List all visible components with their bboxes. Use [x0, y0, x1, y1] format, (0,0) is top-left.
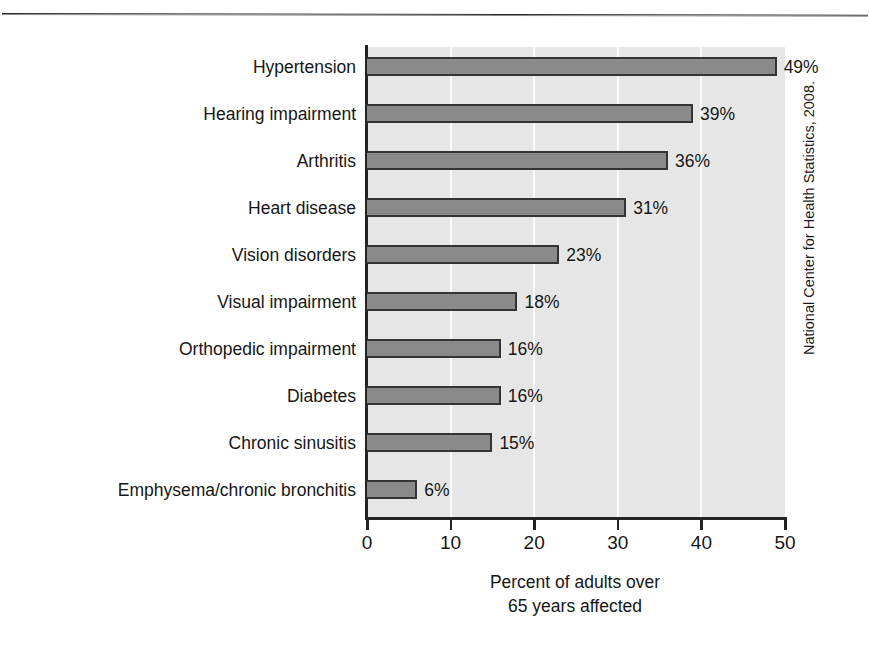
x-axis-tick-label: 0 [347, 532, 387, 554]
bar-value-label: 18% [524, 293, 559, 311]
x-axis-tick-label: 50 [765, 532, 805, 554]
x-axis-tick-label: 10 [431, 532, 471, 554]
x-axis-tick [700, 519, 703, 530]
x-axis-title-line-1: Percent of adults over [395, 570, 755, 594]
x-axis-tick [533, 519, 536, 530]
bar-value-label: 31% [633, 199, 668, 217]
bar [367, 292, 517, 311]
bar [367, 151, 668, 170]
bar-value-label: 6% [424, 481, 449, 499]
category-label: Visual impairment [20, 293, 356, 311]
x-axis-tick-label: 40 [681, 532, 721, 554]
source-credit: National Center for Health Statistics, 2… [800, 75, 818, 355]
x-axis-tick [366, 519, 369, 530]
x-axis-tick-label: 30 [598, 532, 638, 554]
x-axis-tick-label: 20 [514, 532, 554, 554]
category-label: Heart disease [20, 199, 356, 217]
x-axis-title: Percent of adults over 65 years affected [395, 570, 755, 618]
bar [367, 386, 501, 405]
category-label: Arthritis [20, 152, 356, 170]
bar [367, 339, 501, 358]
bar-value-label: 16% [508, 340, 543, 358]
category-label: Emphysema/chronic bronchitis [20, 481, 356, 499]
category-label: Hypertension [20, 58, 356, 76]
x-axis-tick [784, 519, 787, 530]
bar-value-label: 23% [566, 246, 601, 264]
x-axis-line [365, 517, 787, 520]
bar-value-label: 15% [499, 434, 534, 452]
bar [367, 57, 777, 76]
x-axis-tick [617, 519, 620, 530]
bar-value-label: 49% [784, 58, 819, 76]
category-label: Orthopedic impairment [20, 340, 356, 358]
category-axis-labels: HypertensionHearing impairmentArthritisH… [20, 47, 356, 517]
x-axis-title-line-2: 65 years affected [395, 594, 755, 618]
category-label: Diabetes [20, 387, 356, 405]
bar [367, 480, 417, 499]
bar [367, 198, 626, 217]
bar [367, 433, 492, 452]
bar [367, 245, 559, 264]
category-label: Hearing impairment [20, 105, 356, 123]
category-label: Vision disorders [20, 246, 356, 264]
x-axis-tick [450, 519, 453, 530]
category-label: Chronic sinusitis [20, 434, 356, 452]
bar-value-label: 39% [700, 105, 735, 123]
horizontal-bar-chart: HypertensionHearing impairmentArthritisH… [0, 0, 870, 666]
bar-value-label: 36% [675, 152, 710, 170]
bar-value-label: 16% [508, 387, 543, 405]
bar [367, 104, 693, 123]
